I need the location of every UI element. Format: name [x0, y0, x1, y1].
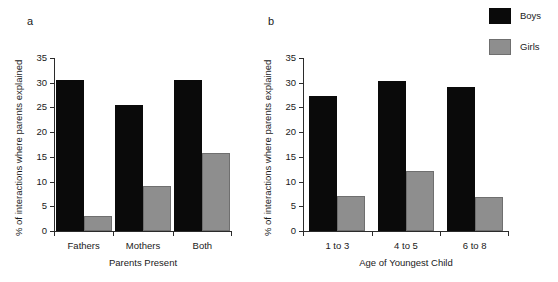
- panel-b-letter: b: [268, 16, 274, 27]
- bar-girls-1-to-3: [337, 196, 365, 231]
- panel-b-y-axis-label: % of interactions where parents explaine…: [263, 60, 273, 236]
- bar-boys-1-to-3: [309, 96, 337, 231]
- bar-boys-fathers: [56, 80, 84, 231]
- x-category-label: Fathers: [68, 241, 100, 251]
- x-tick-mark-end: [303, 232, 304, 236]
- y-tick-mark: [50, 132, 54, 133]
- x-category-label: Both: [193, 241, 213, 251]
- y-tick-label: 0: [42, 226, 47, 236]
- bar-boys-6-to-8: [447, 87, 475, 231]
- y-tick-label: 10: [285, 177, 296, 187]
- y-tick-mark: [299, 107, 303, 108]
- bar-girls-both: [202, 153, 230, 231]
- y-tick-mark: [50, 182, 54, 183]
- y-tick-label: 30: [36, 78, 47, 88]
- y-tick-label: 0: [291, 226, 296, 236]
- panel-b-x-axis-label: Age of Youngest Child: [303, 258, 509, 268]
- panel-b: b 051015202530351 to 34 to 56 to 8 % of …: [252, 0, 514, 282]
- y-tick-mark: [299, 132, 303, 133]
- legend-item-girls: Girls: [489, 39, 540, 55]
- y-tick-mark: [50, 157, 54, 158]
- y-tick-mark: [299, 58, 303, 59]
- x-tick-mark: [173, 232, 174, 236]
- y-tick-label: 25: [285, 103, 296, 113]
- x-tick-mark: [440, 232, 441, 236]
- x-category-label: Mothers: [126, 241, 160, 251]
- legend-label-girls: Girls: [520, 42, 540, 52]
- bar-boys-both: [174, 80, 202, 231]
- bar-girls-4-to-5: [406, 171, 434, 231]
- y-tick-label: 30: [285, 78, 296, 88]
- panel-b-plot-area: 051015202530351 to 34 to 56 to 8: [303, 58, 509, 232]
- legend-swatch-girls: [489, 39, 511, 55]
- panel-a-letter: a: [27, 16, 33, 27]
- panel-a-y-axis-label: % of interactions where parents explaine…: [14, 60, 24, 236]
- legend-swatch-boys: [489, 8, 511, 24]
- y-tick-mark: [299, 206, 303, 207]
- x-tick-mark-end: [231, 232, 232, 236]
- y-tick-label: 20: [285, 127, 296, 137]
- bar-boys-mothers: [115, 105, 143, 231]
- legend-item-boys: Boys: [489, 8, 541, 24]
- x-category-label: 1 to 3: [325, 241, 349, 251]
- y-tick-mark: [50, 107, 54, 108]
- y-tick-label: 35: [36, 53, 47, 63]
- figure-two-panel-bar-chart: a 05101520253035FathersMothersBoth % of …: [0, 0, 558, 282]
- legend-label-boys: Boys: [520, 11, 541, 21]
- y-tick-mark: [50, 206, 54, 207]
- bar-girls-6-to-8: [475, 197, 503, 231]
- y-tick-label: 25: [36, 103, 47, 113]
- bar-girls-mothers: [143, 186, 171, 231]
- x-tick-mark-end: [54, 232, 55, 236]
- panel-a-x-axis-label: Parents Present: [54, 258, 232, 268]
- y-tick-mark: [299, 182, 303, 183]
- panel-a-x-axis: [54, 231, 232, 232]
- panel-a-plot-area: 05101520253035FathersMothersBoth: [54, 58, 232, 232]
- x-category-label: 4 to 5: [394, 241, 418, 251]
- bar-boys-4-to-5: [378, 81, 406, 231]
- panel-b-x-axis: [303, 231, 509, 232]
- panel-a: a 05101520253035FathersMothersBoth % of …: [0, 0, 268, 282]
- y-tick-label: 20: [36, 127, 47, 137]
- y-tick-label: 35: [285, 53, 296, 63]
- x-category-label: 6 to 8: [463, 241, 487, 251]
- x-tick-mark-end: [508, 232, 509, 236]
- x-tick-mark: [372, 232, 373, 236]
- y-tick-label: 5: [291, 202, 296, 212]
- y-tick-mark: [299, 83, 303, 84]
- y-tick-mark: [50, 58, 54, 59]
- y-tick-mark: [299, 157, 303, 158]
- y-tick-label: 15: [36, 152, 47, 162]
- y-tick-label: 10: [36, 177, 47, 187]
- x-tick-mark: [113, 232, 114, 236]
- y-tick-mark: [50, 83, 54, 84]
- panel-b-y-axis: [303, 58, 304, 232]
- bar-girls-fathers: [84, 216, 112, 231]
- y-tick-label: 5: [42, 202, 47, 212]
- y-tick-label: 15: [285, 152, 296, 162]
